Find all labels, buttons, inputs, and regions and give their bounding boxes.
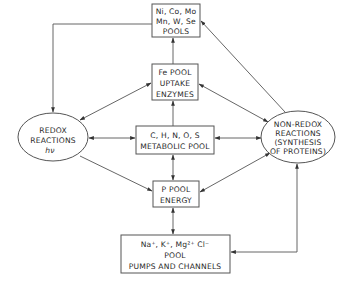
node-redox-reactions: REDOX REACTIONS hν [18,113,88,161]
node-label-line: Mn, W, Se [156,17,196,26]
node-label-line: REDOX [39,126,67,135]
edge-non-redox-to-trace-metals [201,21,285,112]
node-label-line: Ni, Co, Mo [156,7,197,16]
node-label-line: METABOLIC POOL [140,142,210,151]
node-label-line: Fe POOL [158,68,192,77]
edge-fe-redox [80,83,151,120]
node-label-line: REACTIONS [275,129,321,138]
node-label-line: POOL [164,251,186,260]
node-label-line: ENERGY [160,196,192,205]
edge-non-redox-ions [231,164,297,252]
node-p-pool: P POOL ENERGY [153,181,199,207]
edge-redox-to-p [80,156,152,191]
node-label-line: Na⁺, K⁺, Mg²⁺ Cl⁻ [141,240,210,249]
node-label-line: C, H, N, O, S [150,131,199,140]
node-chnos-metabolic-pool: C, H, N, O, S METABOLIC POOL [136,126,214,154]
edge-trace-metals-to-redox [53,24,152,112]
node-label-line: (SYNTHESIS [274,138,321,147]
edge-fe-non-redox [199,84,268,122]
nutrient-pool-diagram: Ni, Co, Mo Mn, W, Se POOLS Fe POOL UPTAK… [0,0,344,285]
node-trace-metals-pools: Ni, Co, Mo Mn, W, Se POOLS [152,4,200,37]
node-label-line: POOLS [163,27,190,36]
node-label-line: PUMPS AND CHANNELS [129,262,222,271]
node-label-line: P POOL [162,185,192,194]
edge-p-non-redox [200,153,270,192]
node-ion-pool: Na⁺, K⁺, Mg²⁺ Cl⁻ POOL PUMPS AND CHANNEL… [121,235,230,273]
node-label-line: ENZYMES [156,90,194,99]
node-label-line: NON-REDOX [274,120,323,129]
node-non-redox-reactions: NON-REDOX REACTIONS (SYNTHESIS OF PROTEI… [261,111,335,163]
node-label-line: REACTIONS [30,136,76,145]
node-fe-pool: Fe POOL UPTAKE ENZYMES [152,64,198,100]
node-label-line: OF PROTEINS) [270,147,326,156]
node-label-line: UPTAKE [160,79,190,88]
node-label-line: hν [45,146,55,155]
